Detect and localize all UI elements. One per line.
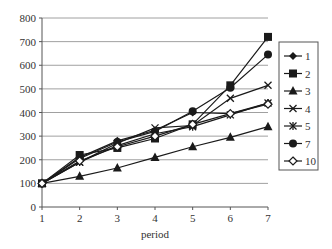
x-tick-label: 1 xyxy=(39,212,45,224)
circle-marker-icon xyxy=(289,140,297,148)
x-tick-label: 2 xyxy=(77,212,83,224)
y-tick-label: 500 xyxy=(20,83,37,95)
x-tick-label: 6 xyxy=(228,212,234,224)
y-tick-label: 300 xyxy=(20,130,37,142)
square-marker-icon xyxy=(289,70,297,78)
x-marker-icon xyxy=(265,82,272,89)
circle-marker-icon xyxy=(226,84,234,92)
legend-box xyxy=(279,42,318,170)
y-tick-label: 0 xyxy=(31,201,37,213)
y-tick-label: 400 xyxy=(20,107,37,119)
y-tick-label: 600 xyxy=(20,59,37,71)
y-tick-label: 800 xyxy=(20,12,37,24)
legend-label: 2 xyxy=(305,68,311,80)
legend-label: 10 xyxy=(305,155,317,167)
x-tick-label: 3 xyxy=(115,212,121,224)
y-tick-label: 200 xyxy=(20,154,37,166)
triangle-marker-icon xyxy=(264,122,273,131)
open-diamond-marker-icon xyxy=(226,110,234,118)
x-axis-title: period xyxy=(141,228,170,240)
legend-label: 3 xyxy=(305,85,311,97)
data-series xyxy=(38,33,273,187)
legend-label: 5 xyxy=(305,120,311,132)
series-7 xyxy=(38,51,272,188)
legend-label: 4 xyxy=(305,103,311,115)
legend: 12345710 xyxy=(279,42,318,170)
open-diamond-marker-icon xyxy=(264,100,272,108)
circle-marker-icon xyxy=(264,51,272,59)
line-chart: 0100200300400500600700800 1234567 period… xyxy=(0,0,332,249)
circle-marker-icon xyxy=(189,107,197,115)
x-tick-label: 7 xyxy=(265,212,271,224)
legend-label: 1 xyxy=(305,50,311,62)
y-tick-label: 100 xyxy=(20,177,37,189)
y-tick-label: 700 xyxy=(20,36,37,48)
legend-label: 7 xyxy=(305,138,311,150)
x-marker-icon xyxy=(227,95,234,102)
square-marker-icon xyxy=(264,33,272,41)
x-axis-ticks: 1234567 xyxy=(39,207,271,224)
x-tick-label: 4 xyxy=(152,212,158,224)
x-tick-label: 5 xyxy=(190,212,196,224)
